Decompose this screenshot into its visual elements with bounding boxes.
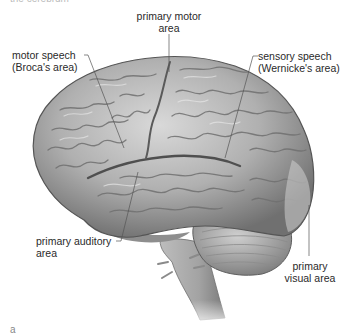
label-primary-auditory: primary auditory area xyxy=(36,235,111,259)
label-primary-motor-area: primary motor area xyxy=(130,10,208,34)
label-line: sensory speech xyxy=(258,50,340,62)
label-line: (Wernicke's area) xyxy=(258,62,340,74)
panel-letter: a xyxy=(10,324,16,335)
label-line: motor speech xyxy=(12,49,78,61)
label-line: (Broca's area) xyxy=(12,61,78,73)
label-motor-speech: motor speech (Broca's area) xyxy=(12,49,78,73)
brain-diagram: the cerebrum xyxy=(0,0,351,336)
label-line: area xyxy=(130,22,208,34)
label-line: area xyxy=(36,247,111,259)
label-sensory-speech: sensory speech (Wernicke's area) xyxy=(258,50,340,74)
label-primary-visual: primary visual area xyxy=(282,260,338,284)
cerebrum xyxy=(33,57,313,238)
label-line: primary auditory xyxy=(36,235,111,247)
label-line: primary xyxy=(282,260,338,272)
label-line: visual area xyxy=(282,272,338,284)
label-line: primary motor xyxy=(130,10,208,22)
